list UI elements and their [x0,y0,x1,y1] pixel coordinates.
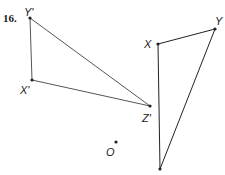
image-triangle [28,16,151,107]
segment-x-y [158,29,215,44]
point-o-center [114,140,117,143]
segment-x-z [158,44,160,169]
problem-number: 16. [3,12,17,24]
label-o: O [106,146,115,158]
segment-y-z [160,29,215,169]
segment-yp-xp [30,18,32,80]
label-y-prime: Y' [24,6,34,18]
label-x: X [143,38,152,50]
label-y: Y [215,15,223,27]
point-y [213,27,216,30]
preimage-triangle [156,27,216,170]
point-z-prime [148,104,151,107]
point-x-prime [30,78,33,81]
label-x-prime: X' [19,84,30,96]
point-x [156,42,159,45]
diagram-canvas: 16. Y' X' Z' X Y O [0,0,225,175]
point-z [158,167,161,170]
label-z-prime: Z' [141,112,152,124]
